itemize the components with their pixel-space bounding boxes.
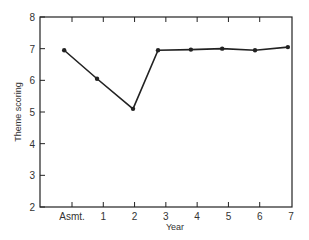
x-tick-label: 6: [257, 211, 263, 222]
y-tick-label: 4: [29, 139, 35, 150]
y-tick-label: 2: [29, 202, 35, 213]
y-axis-label: Theme scoring: [13, 82, 23, 142]
x-tick-label: 4: [194, 211, 200, 222]
plot-frame: [40, 17, 292, 207]
data-point: [189, 47, 193, 51]
x-tick-label: 5: [226, 211, 232, 222]
y-tick-label: 5: [29, 107, 35, 118]
data-point: [131, 107, 135, 111]
y-tick-label: 8: [29, 12, 35, 23]
x-tick-label: 2: [132, 211, 138, 222]
plot-border: [40, 17, 292, 207]
data-point: [220, 46, 224, 50]
data-point: [286, 45, 290, 49]
data-point: [95, 77, 99, 81]
x-tick-label: Asmt.: [59, 211, 85, 222]
x-tick-label: 1: [101, 211, 107, 222]
x-axis: Asmt.1234567: [59, 17, 294, 222]
data-point: [156, 48, 160, 52]
y-tick-label: 7: [29, 44, 35, 55]
data-series: [62, 45, 290, 111]
x-axis-label: Year: [166, 222, 184, 232]
y-axis: 2345678: [29, 12, 45, 213]
line-chart: 2345678 Asmt.1234567 Year Theme scoring: [0, 0, 309, 240]
x-tick-label: 7: [288, 211, 294, 222]
y-tick-label: 6: [29, 75, 35, 86]
x-tick-label: 3: [163, 211, 169, 222]
data-point: [253, 48, 257, 52]
data-point: [62, 48, 66, 52]
y-tick-label: 3: [29, 170, 35, 181]
